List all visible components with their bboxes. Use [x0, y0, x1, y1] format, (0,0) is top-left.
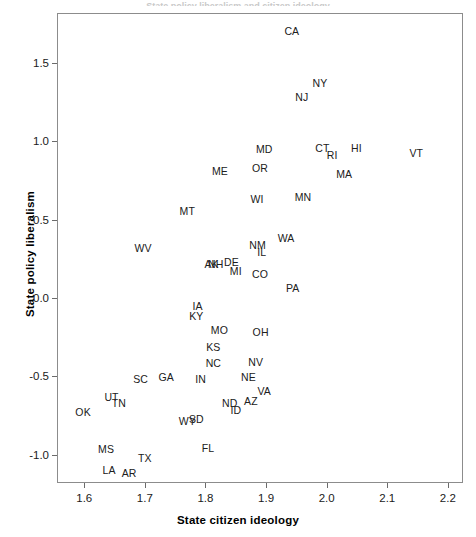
- data-point-label-tn: TN: [112, 398, 126, 409]
- data-point-label-oh: OH: [253, 326, 269, 337]
- data-point-label-ca: CA: [284, 26, 299, 37]
- data-point-label-id: ID: [230, 405, 241, 416]
- data-point-label-tx: TX: [138, 453, 152, 464]
- x-tick-2: [205, 483, 206, 488]
- y-tick-0: [52, 63, 57, 64]
- x-tick-label-2: 1.8: [197, 492, 213, 504]
- x-tick-label-3: 1.9: [258, 492, 274, 504]
- y-tick-2: [52, 220, 57, 221]
- data-point-label-va: VA: [258, 386, 271, 397]
- data-point-label-wi: WI: [250, 194, 263, 205]
- data-point-label-nc: NC: [206, 358, 221, 369]
- x-tick-4: [327, 483, 328, 488]
- data-point-label-fl: FL: [202, 443, 214, 454]
- data-point-label-ar: AR: [122, 468, 137, 479]
- x-tick-label-5: 2.1: [379, 492, 395, 504]
- data-point-label-md: MD: [256, 144, 273, 155]
- data-point-label-ri: RI: [327, 150, 338, 161]
- data-point-label-nv: NV: [248, 357, 263, 368]
- x-tick-label-6: 2.2: [440, 492, 456, 504]
- data-point-label-co: CO: [252, 269, 268, 280]
- data-point-label-ms: MS: [98, 443, 114, 454]
- data-point-label-wa: WA: [278, 233, 295, 244]
- data-point-label-ma: MA: [336, 168, 352, 179]
- data-point-label-nj: NJ: [295, 92, 308, 103]
- x-tick-label-1: 1.7: [137, 492, 153, 504]
- data-point-label-mt: MT: [180, 206, 195, 217]
- data-point-layer: CANYNJVTHICTRIMDMAORMEMNWIMTWANMILWVDENH…: [0, 0, 476, 537]
- x-axis-title: State citizen ideology: [0, 514, 476, 526]
- x-tick-3: [266, 483, 267, 488]
- data-point-label-az: AZ: [244, 396, 258, 407]
- y-tick-label-5: -1.0: [8, 449, 49, 461]
- y-tick-5: [52, 455, 57, 456]
- data-point-label-vt: VT: [410, 148, 424, 159]
- y-tick-1: [52, 141, 57, 142]
- data-point-label-wv: WV: [134, 242, 151, 253]
- data-point-label-in: IN: [195, 374, 206, 385]
- data-point-label-me: ME: [212, 166, 228, 177]
- x-tick-label-4: 2.0: [319, 492, 335, 504]
- data-point-label-la: LA: [103, 465, 116, 476]
- x-tick-1: [145, 483, 146, 488]
- data-point-label-or: OR: [252, 163, 268, 174]
- data-point-label-sc: SC: [133, 374, 148, 385]
- scatter-plot-figure: State policy liberalism and citizen ideo…: [0, 0, 476, 537]
- data-point-label-il: IL: [257, 246, 266, 257]
- data-point-label-ks: KS: [206, 341, 220, 352]
- x-tick-label-0: 1.6: [76, 492, 92, 504]
- y-tick-3: [52, 298, 57, 299]
- data-point-label-mi: MI: [230, 266, 242, 277]
- data-point-label-mo: MO: [211, 325, 228, 336]
- data-point-label-ky: KY: [189, 311, 203, 322]
- y-tick-label-0: 1.5: [8, 57, 49, 69]
- data-point-label-ga: GA: [158, 372, 173, 383]
- y-axis-title: State policy liberalism: [24, 124, 36, 384]
- data-point-label-ok: OK: [75, 407, 90, 418]
- data-point-label-wy: WY: [179, 416, 196, 427]
- data-point-label-ny: NY: [313, 78, 328, 89]
- x-tick-5: [387, 483, 388, 488]
- data-point-label-mn: MN: [295, 192, 312, 203]
- y-tick-4: [52, 376, 57, 377]
- data-point-label-pa: PA: [286, 283, 299, 294]
- data-point-label-ak: AK: [204, 259, 218, 270]
- data-point-label-hi: HI: [351, 143, 362, 154]
- data-point-label-ne: NE: [241, 372, 256, 383]
- x-tick-0: [84, 483, 85, 488]
- x-tick-6: [448, 483, 449, 488]
